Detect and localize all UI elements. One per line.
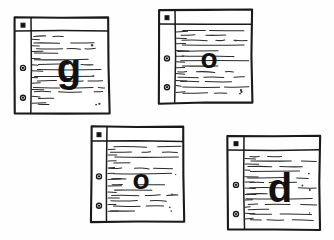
- paper-speck: [95, 104, 97, 106]
- card-letter-lowercase-o: o: [200, 43, 217, 74]
- paper-speck: [235, 40, 237, 42]
- margin-tick: [176, 74, 185, 75]
- paper-speck: [309, 212, 310, 213]
- paper-cards-canvas: good: [0, 0, 334, 240]
- margin-tick: [176, 51, 189, 52]
- rule-line: [301, 204, 317, 205]
- paper-speck: [91, 44, 93, 46]
- margin-tick: [176, 86, 181, 87]
- hole-punch-center: [235, 213, 237, 215]
- hole-punch-center: [166, 57, 168, 59]
- paper-speck: [171, 194, 173, 196]
- margin-tick: [32, 71, 43, 72]
- paper-card[interactable]: d: [227, 136, 320, 230]
- margin-tick: [176, 62, 185, 63]
- margin-tick: [245, 213, 255, 214]
- rule-line: [178, 77, 198, 78]
- rule-line: [158, 146, 181, 147]
- card-letter-lowercase-o: o: [132, 164, 149, 195]
- hole-punch-center: [22, 67, 24, 69]
- hole-punch-top: [165, 16, 169, 20]
- paper-speck: [308, 173, 310, 175]
- margin-tick: [176, 31, 188, 32]
- margin-tick: [32, 83, 40, 84]
- rule-line: [301, 161, 316, 162]
- paper-speck: [175, 174, 176, 175]
- paper-card[interactable]: o: [159, 10, 253, 104]
- rule-line: [297, 178, 309, 179]
- rule-line: [183, 93, 208, 94]
- scene-svg: good: [0, 0, 334, 240]
- rule-line: [181, 81, 199, 82]
- rule-line: [248, 209, 268, 210]
- paper-card[interactable]: g: [15, 17, 110, 114]
- paper-speck: [309, 189, 311, 191]
- margin-tick: [108, 192, 116, 193]
- paper-card[interactable]: o: [91, 126, 184, 222]
- card-letter-lowercase-d: d: [268, 166, 292, 210]
- paper-speck: [170, 210, 172, 212]
- header-line: [228, 150, 320, 151]
- card-letter-lowercase-g: g: [57, 46, 81, 90]
- margin-tick: [32, 65, 38, 66]
- hole-punch-center: [98, 175, 100, 177]
- rule-line: [111, 201, 138, 202]
- paper-speck: [239, 93, 241, 95]
- paper-speck: [240, 91, 242, 93]
- margin-tick: [32, 39, 39, 40]
- margin-tick: [32, 96, 40, 97]
- hole-punch-center: [22, 97, 24, 99]
- margin-tick: [245, 188, 255, 189]
- rule-line: [292, 220, 313, 221]
- rule-line: [280, 214, 311, 215]
- paper-speck: [98, 103, 100, 105]
- margin-line: [31, 18, 32, 114]
- hole-punch-center: [98, 205, 100, 207]
- paper-speck: [169, 207, 171, 209]
- hole-punch-center: [166, 86, 168, 88]
- rule-line: [59, 92, 82, 93]
- rule-line: [181, 35, 195, 36]
- paper-speck: [301, 185, 303, 187]
- hole-punch-top: [21, 23, 25, 27]
- hole-punch-top: [234, 142, 238, 146]
- rule-line: [142, 152, 151, 153]
- margin-tick: [176, 92, 185, 93]
- rule-line: [178, 71, 187, 72]
- paper-speck: [93, 75, 94, 76]
- hole-punch-center: [235, 184, 237, 186]
- rule-line: [234, 77, 245, 78]
- margin-tick: [245, 218, 253, 219]
- rule-line: [162, 152, 177, 153]
- hole-punch-top: [97, 133, 101, 137]
